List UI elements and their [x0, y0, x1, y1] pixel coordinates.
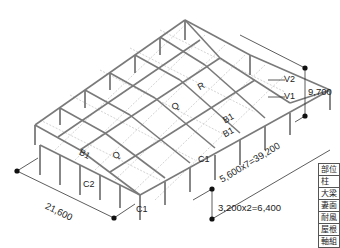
legend-row: 大梁 [319, 188, 340, 200]
roof-bracing [40, 25, 285, 200]
bay-dimension-label: 3,200x2=6,400 [218, 203, 281, 213]
member-label-v2: V2 [284, 75, 295, 84]
dimension-dots [14, 65, 307, 221]
member-label-c2: C2 [83, 180, 95, 189]
member-label-v1: V1 [284, 92, 295, 101]
legend-row: 軸組 [319, 236, 340, 248]
legend-row: 柱 [319, 176, 340, 188]
member-label-c1-front: C1 [136, 205, 148, 214]
dimension-lines [17, 35, 330, 219]
height-dimension-label: 9,700 [308, 87, 332, 97]
member-legend-table: 部位 柱 大梁 妻面 耐風 屋根 軸組 [318, 163, 340, 248]
member-label-c1-center: C1 [198, 155, 210, 164]
legend-row: 妻面 [319, 200, 340, 212]
legend-row: 屋根 [319, 224, 340, 236]
legend-row: 耐風 [319, 212, 340, 224]
legend-row: 部位 [319, 164, 340, 176]
